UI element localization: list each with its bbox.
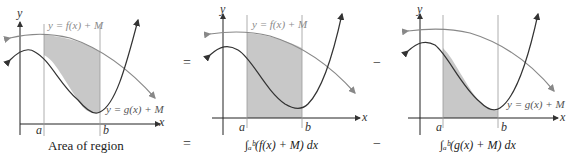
- equals-operator-top: =: [183, 55, 191, 71]
- svg-text:∫ₐᵇ(g(x) + M) dx: ∫ₐᵇ(g(x) + M) dx: [439, 138, 516, 152]
- svg-text:a: a: [239, 120, 245, 134]
- svg-text:∫ₐᵇ(f(x) + M) dx: ∫ₐᵇ(f(x) + M) dx: [244, 138, 319, 152]
- svg-text:y = g(x) + M: y = g(x) + M: [105, 103, 164, 116]
- svg-text:a: a: [436, 120, 442, 134]
- svg-text:y: y: [416, 2, 423, 16]
- panel-left: y = f(x) + M y = g(x) + M x y a b Area o…: [10, 6, 165, 153]
- svg-text:y = g(x) + M: y = g(x) + M: [506, 98, 565, 111]
- svg-text:a: a: [36, 123, 42, 137]
- svg-text:x: x: [361, 110, 368, 124]
- minus-operator-top: −: [373, 55, 381, 71]
- svg-text:b: b: [103, 123, 109, 137]
- svg-text:y: y: [219, 2, 226, 16]
- svg-text:y: y: [16, 6, 23, 20]
- svg-text:x: x: [158, 115, 165, 129]
- svg-text:y = f(x) + M: y = f(x) + M: [251, 18, 308, 31]
- svg-text:b: b: [305, 120, 311, 134]
- equals-operator-bottom: =: [183, 136, 191, 152]
- svg-text:b: b: [501, 120, 507, 134]
- svg-text:y = f(x) + M: y = f(x) + M: [47, 19, 104, 32]
- panel-right: y = g(x) + M x y a b ∫ₐᵇ(g(x) + M) dx: [408, 2, 566, 152]
- area-between-curves-diagram: y = f(x) + M y = g(x) + M x y a b Area o…: [0, 0, 569, 154]
- caption-left: Area of region: [48, 138, 124, 153]
- panel-middle: y = f(x) + M x y a b ∫ₐᵇ(f(x) + M) dx: [210, 2, 368, 152]
- minus-operator-bottom: −: [373, 136, 381, 152]
- svg-text:x: x: [559, 110, 566, 124]
